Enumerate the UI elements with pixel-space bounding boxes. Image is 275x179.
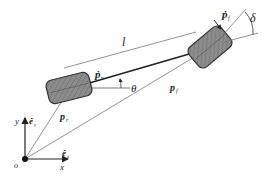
rear-wheel <box>45 71 93 105</box>
rear-velocity-subscript: r <box>101 75 104 81</box>
rear-position-label: p <box>59 111 65 122</box>
origin-point <box>22 156 28 162</box>
front-velocity-subscript: f <box>228 15 231 21</box>
heading-angle-label: θ <box>131 82 137 94</box>
origin-label: o <box>14 161 18 170</box>
heading-angle-arc <box>120 79 121 88</box>
rear-velocity-label: ṗ <box>94 68 101 80</box>
wheelbase-label: l <box>122 35 126 49</box>
wheelbase-line <box>64 32 196 68</box>
y-unit-vector-subscript: y <box>33 122 37 127</box>
rear-position-subscript: r <box>66 117 69 123</box>
x-axis-label: x <box>59 162 64 172</box>
y-axis-label: y <box>14 116 19 126</box>
steering-angle-label: δ <box>250 11 256 25</box>
front-position-label: p <box>169 82 175 93</box>
front-position-vector <box>25 50 206 159</box>
front-velocity-label: ṗ <box>221 8 228 20</box>
front-position-subscript: f <box>176 88 179 94</box>
x-unit-vector-subscript: x <box>66 154 70 159</box>
bicycle-model-diagram: l θ δ ṗ r ṗ f p r p f o x y ê x ê y <box>0 0 275 179</box>
